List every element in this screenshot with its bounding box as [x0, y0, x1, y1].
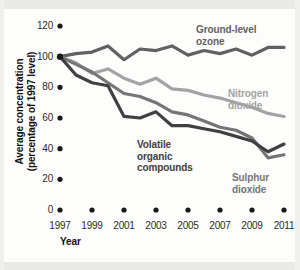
- y-axis-tick-label: 20: [27, 173, 53, 184]
- x-axis-tick-dot: [89, 207, 94, 212]
- y-axis-tick-label: 40: [27, 143, 53, 154]
- y-axis-tick-label: 80: [27, 81, 53, 92]
- y-axis-tick-label: 60: [27, 112, 53, 123]
- y-axis-tick-dot: [57, 146, 62, 151]
- series-line-ground-level-ozone: [60, 46, 284, 60]
- series-label-nitrogen-dioxide: Nitrogen dioxide: [228, 88, 268, 111]
- series-label-ground-level-ozone: Ground-level ozone: [196, 24, 256, 47]
- y-axis-tick-dot: [57, 23, 62, 28]
- x-axis-tick-label: 2005: [173, 220, 203, 231]
- x-axis-tick-label: 1997: [45, 220, 75, 231]
- series-origin-marker: [57, 53, 63, 59]
- y-axis-tick-dot: [57, 207, 62, 212]
- x-axis-tick-label: 1999: [77, 220, 107, 231]
- x-axis-title: Year: [60, 236, 81, 247]
- y-axis-tick-dot: [57, 85, 62, 90]
- x-axis-tick-dot: [185, 207, 190, 212]
- x-axis-tick-dot: [121, 207, 126, 212]
- y-axis-tick-label: 0: [27, 204, 53, 215]
- chart-figure: Average concentration (percentage of 199…: [0, 0, 300, 270]
- x-axis-tick-label: 2001: [109, 220, 139, 231]
- x-axis-tick-dot: [217, 207, 222, 212]
- x-axis-tick-dot: [153, 207, 158, 212]
- x-axis-tick-dot: [281, 207, 286, 212]
- y-axis-tick-dot: [57, 115, 62, 120]
- x-axis-tick-label: 2011: [269, 220, 299, 231]
- x-axis-tick-label: 2003: [141, 220, 171, 231]
- x-axis-tick-label: 2009: [237, 220, 267, 231]
- series-label-volatile-organic-compounds: Volatile organic compounds: [137, 139, 193, 174]
- y-axis-tick-label: 100: [27, 51, 53, 62]
- series-label-sulphur-dioxide: Sulphur dioxide: [232, 172, 269, 195]
- y-axis-tick-dot: [57, 177, 62, 182]
- x-axis-tick-dot: [249, 207, 254, 212]
- y-axis-tick-label: 120: [27, 20, 53, 31]
- x-axis-tick-label: 2007: [205, 220, 235, 231]
